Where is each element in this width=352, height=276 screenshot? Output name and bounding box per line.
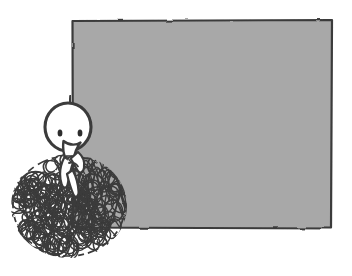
eye-left-icon: [58, 129, 63, 136]
eye-right-icon: [78, 129, 83, 136]
scene-root: [0, 0, 352, 276]
illustration-canvas: Hand-drawn doodle of a round-headed figu…: [0, 0, 352, 276]
